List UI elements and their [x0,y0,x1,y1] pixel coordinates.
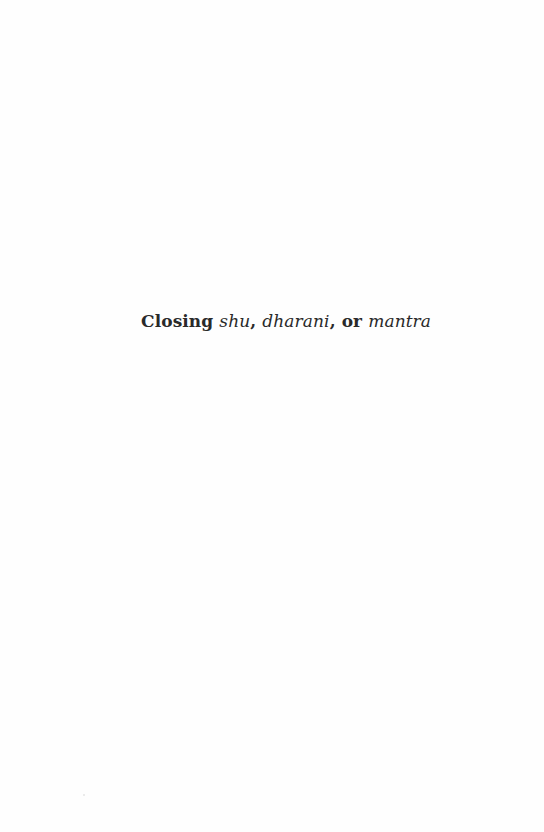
document-page: Closing shu, dharani, or mantra [0,0,544,832]
title-part-closing: Closing [141,311,219,331]
title-part-or: , or [330,311,369,331]
title-part-dharani: dharani [262,311,329,331]
title-part-mantra: mantra [368,311,431,331]
scan-artifact [83,794,85,796]
title-part-comma-1: , [250,311,262,331]
title-part-shu: shu [219,311,250,331]
section-title: Closing shu, dharani, or mantra [141,309,421,333]
